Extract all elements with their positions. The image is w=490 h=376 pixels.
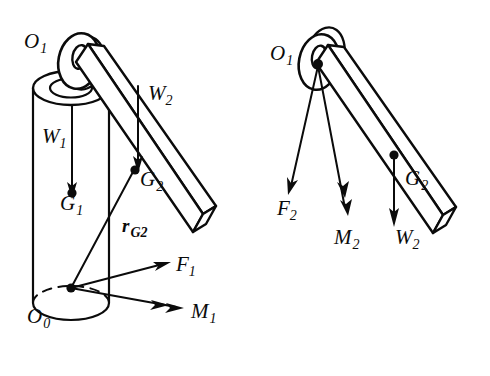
point-o0	[66, 283, 75, 292]
label-o1: O1	[24, 29, 47, 56]
engineering-free-body-diagram: O1 W1 G1 W2 G2 rG2 O0 F1	[0, 0, 490, 376]
point-g2	[130, 165, 139, 174]
left-panel: O1 W1 G1 W2 G2 rG2 O0 F1	[24, 29, 217, 331]
vector-f2	[287, 66, 318, 195]
point-o1	[313, 59, 323, 69]
label-o1: O1	[270, 41, 293, 68]
vector-m1-arrowhead-outer	[165, 303, 184, 313]
label-m2: M2	[333, 225, 360, 252]
label-f2: F2	[276, 196, 297, 223]
right-panel: O1 F2 M2 G2 W2	[270, 27, 456, 252]
point-g2	[389, 150, 398, 159]
label-f1: F1	[175, 252, 196, 279]
arm-link	[316, 45, 456, 233]
arm-top-face	[328, 45, 456, 215]
arm-front-face	[316, 45, 443, 233]
vector-m2-arrowhead-outer	[340, 199, 352, 216]
label-r-g2: rG2	[122, 215, 148, 240]
label-w2: W2	[148, 81, 173, 108]
vector-m1-arrowhead-inner	[150, 300, 169, 310]
label-m1: M1	[190, 299, 217, 326]
label-w2: W2	[395, 225, 420, 252]
